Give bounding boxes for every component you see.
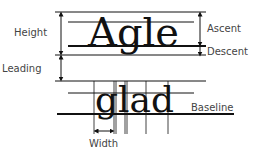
sample-word-upper: Agle	[87, 9, 179, 55]
sample-word-lower: glad	[95, 79, 174, 120]
height-label: Height	[14, 27, 47, 38]
font-metrics-diagram: Agle Height Ascent Descent Leading glad …	[0, 0, 262, 158]
descent-label: Descent	[207, 46, 248, 57]
ascent-label: Ascent	[207, 23, 241, 34]
leading-label: Leading	[2, 63, 42, 74]
baseline-label: Baseline	[191, 102, 233, 113]
width-label: Width	[89, 138, 118, 149]
